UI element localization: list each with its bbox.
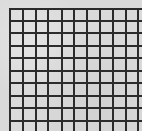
grid-horizontal-line (9, 45, 142, 47)
grid-horizontal-line (9, 70, 142, 72)
grid-horizontal-line (9, 95, 142, 97)
grid-horizontal-line (9, 8, 142, 10)
grid-horizontal-line (9, 32, 142, 34)
grid-horizontal-line (9, 57, 142, 59)
grid-horizontal-line (9, 120, 142, 122)
grid-horizontal-line (9, 20, 142, 22)
grid-horizontal-line (9, 82, 142, 84)
grid-horizontal-line (9, 107, 142, 109)
